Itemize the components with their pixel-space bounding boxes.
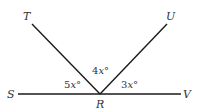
point-label-t: T bbox=[23, 10, 32, 23]
angle-label-srt: 5x° bbox=[64, 79, 81, 90]
angle-urv-unit: ° bbox=[133, 79, 138, 90]
point-label-u: U bbox=[166, 10, 176, 23]
angle-label-tru: 4x° bbox=[92, 65, 109, 76]
angle-diagram: T U S V R 5x° 4x° 3x° bbox=[0, 0, 198, 111]
point-label-r: R bbox=[95, 98, 104, 111]
point-label-v: V bbox=[183, 88, 192, 101]
angle-label-urv: 3x° bbox=[121, 79, 138, 90]
point-label-s: S bbox=[7, 88, 15, 101]
angle-srt-unit: ° bbox=[76, 79, 81, 90]
angle-tru-unit: ° bbox=[104, 65, 109, 76]
